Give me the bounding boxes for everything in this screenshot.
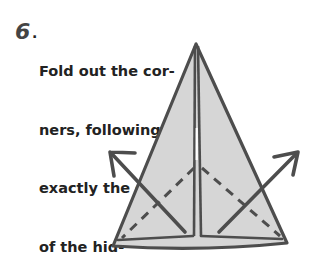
center-slit — [196, 128, 198, 160]
fold-diagram — [0, 0, 315, 261]
center-crease-left — [194, 46, 195, 236]
